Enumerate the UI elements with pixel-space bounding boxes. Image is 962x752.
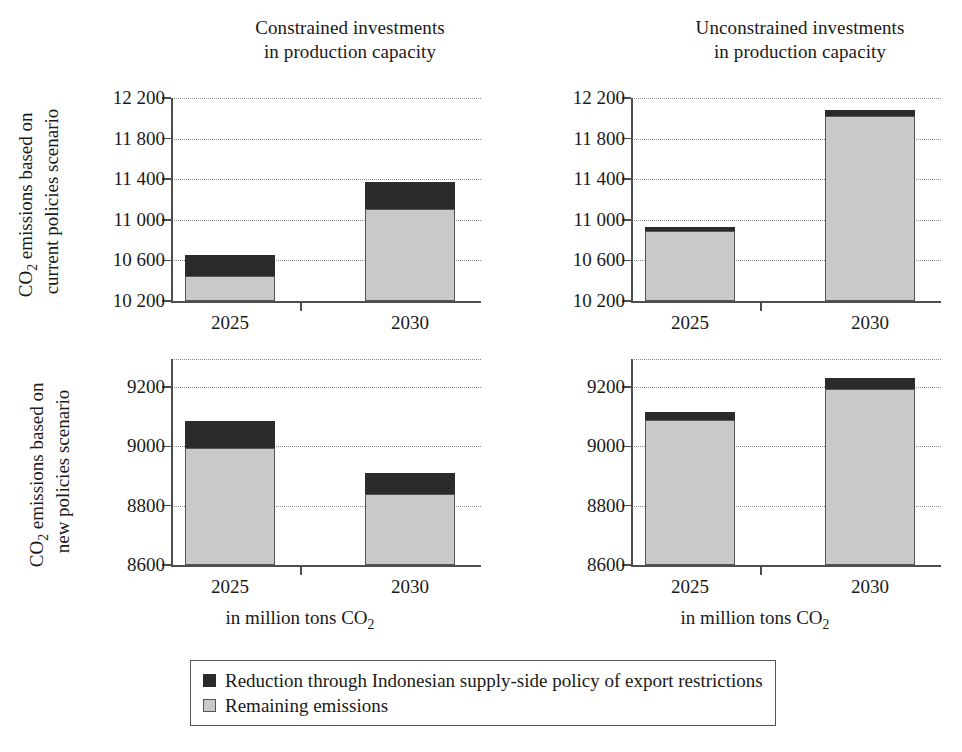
legend: Reduction through Indonesian supply-side… xyxy=(190,660,776,726)
legend-item-reduction: Reduction through Indonesian supply-side… xyxy=(203,668,763,693)
x-axis-tick-label-2030: 2030 xyxy=(810,577,930,596)
x-axis-tick-label-2025: 2025 xyxy=(630,577,750,596)
axis-caption-left-text: in million tons CO2 xyxy=(226,607,375,628)
bar-2030[interactable] xyxy=(825,378,915,565)
x-axis-line xyxy=(631,565,941,567)
axis-caption-left: in million tons CO2 xyxy=(110,607,490,633)
legend-item-remaining: Remaining emissions xyxy=(203,693,763,718)
y-axis-line xyxy=(631,359,633,567)
legend-swatch-remaining-icon xyxy=(203,699,216,712)
legend-label-reduction: Reduction through Indonesian supply-side… xyxy=(225,668,763,693)
chart-panel-bottom-right: 860088009000920020252030 xyxy=(0,0,962,752)
y-axis-tick-label: 9200 xyxy=(505,377,625,396)
legend-swatch-reduction-icon xyxy=(203,674,216,687)
y-axis-tick-label: 9000 xyxy=(505,436,625,455)
bar-segment-remaining[interactable] xyxy=(645,420,735,565)
axis-caption-right: in million tons CO2 xyxy=(565,607,945,633)
bar-2025[interactable] xyxy=(645,412,735,565)
figure-root: Constrained investments in production ca… xyxy=(0,0,962,752)
bar-segment-reduction[interactable] xyxy=(645,412,735,419)
bar-segment-remaining[interactable] xyxy=(825,389,915,565)
y-axis-tick-label: 8800 xyxy=(505,496,625,515)
gridline-top xyxy=(631,359,941,360)
y-axis-tick-label: 8600 xyxy=(505,555,625,574)
x-axis-separator xyxy=(760,565,762,575)
axis-caption-right-text: in million tons CO2 xyxy=(681,607,830,628)
legend-label-remaining: Remaining emissions xyxy=(225,693,388,718)
bar-segment-reduction[interactable] xyxy=(825,378,915,388)
